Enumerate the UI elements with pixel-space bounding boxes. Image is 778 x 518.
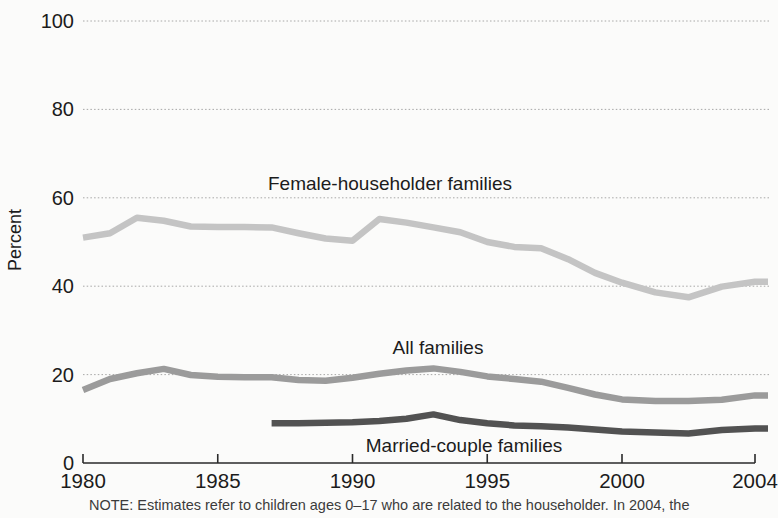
y-tick-label-20: 20 [52, 364, 74, 386]
x-tick-label-1980: 1980 [60, 469, 106, 492]
x-tick-label-1990: 1990 [330, 469, 376, 492]
y-tick-label-80: 80 [52, 98, 74, 120]
x-tick-label-1995: 1995 [464, 469, 510, 492]
series-label-all-families: All families [393, 337, 484, 358]
y-tick-label-60: 60 [52, 187, 74, 209]
line-chart-canvas: 020406080100Percent198019851990199520002… [0, 0, 778, 496]
series-line-female-householder-families [83, 218, 768, 298]
y-axis-title: Percent [5, 209, 25, 271]
x-tick-label-2004: 2004 [732, 469, 778, 492]
child-poverty-by-family-structure-chart: 020406080100Percent198019851990199520002… [0, 0, 778, 518]
series-label-married-couple-families: Married-couple families [366, 435, 562, 456]
y-tick-label-100: 100 [41, 10, 74, 32]
y-tick-label-40: 40 [52, 275, 74, 297]
series-line-married-couple-families [272, 414, 768, 433]
x-tick-label-1985: 1985 [195, 469, 241, 492]
series-line-all-families [83, 368, 768, 401]
chart-note: NOTE: Estimates refer to children ages 0… [89, 496, 690, 514]
x-tick-label-2000: 2000 [599, 469, 645, 492]
series-label-female-householder-families: Female-householder families [268, 173, 512, 194]
